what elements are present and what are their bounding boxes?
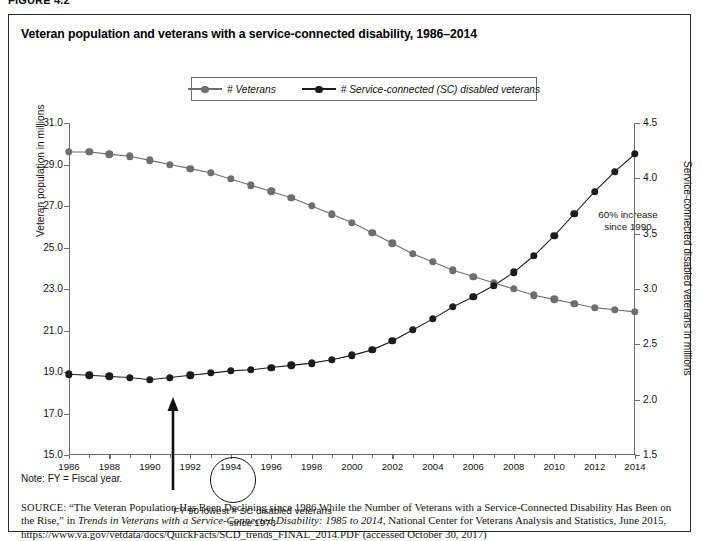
y-tick-label-right: 2.5 xyxy=(643,338,677,349)
source-text: SOURCE: “The Veteran Population Has Been… xyxy=(21,501,681,541)
data-point xyxy=(631,150,638,157)
y-tick-label-left: 19.0 xyxy=(29,366,63,377)
legend-marker-veterans xyxy=(188,84,222,94)
legend-label-sc-disabled: # Service-connected (SC) disabled vetera… xyxy=(341,84,540,95)
x-tick-label: 2014 xyxy=(615,461,655,472)
y-tick-label-left: 21.0 xyxy=(29,325,63,336)
x-tick-label: 1992 xyxy=(170,461,210,472)
y-tick-label-left: 17.0 xyxy=(29,408,63,419)
x-tick-label: 2012 xyxy=(575,461,615,472)
note-text: Note: FY = Fiscal year. xyxy=(21,473,122,484)
plot-frame: 15.017.019.021.023.025.027.029.031.0 1.5… xyxy=(69,123,635,455)
y-tick-label-right: 3.0 xyxy=(643,283,677,294)
x-tick-label: 1998 xyxy=(292,461,332,472)
y-tick-right xyxy=(635,123,640,124)
x-tick-label: 1988 xyxy=(89,461,129,472)
y-tick-label-right: 1.5 xyxy=(643,449,677,460)
series-line xyxy=(69,154,635,380)
y-tick-label-right: 4.0 xyxy=(643,172,677,183)
legend-marker-sc-disabled xyxy=(302,84,336,94)
highlight-circle-fy90 xyxy=(210,457,256,503)
x-tick-label: 2000 xyxy=(332,461,372,472)
series-line xyxy=(69,152,635,312)
series-lines xyxy=(69,123,635,455)
x-tick-label: 2004 xyxy=(413,461,453,472)
y-tick-label-right: 4.5 xyxy=(643,117,677,128)
x-tick-label: 2006 xyxy=(453,461,493,472)
y-tick-label-left: 15.0 xyxy=(29,449,63,460)
y-tick-label-right: 2.0 xyxy=(643,394,677,405)
source-prefix: SOURCE: xyxy=(21,502,66,513)
x-tick-label: 2008 xyxy=(494,461,534,472)
legend-item-veterans: # Veterans xyxy=(188,84,276,95)
y-tick-right xyxy=(635,344,640,345)
plot-area: 60% increase since 1990 15.017.019.021.0… xyxy=(69,109,635,461)
y-tick-right xyxy=(635,178,640,179)
x-tick-major xyxy=(635,454,636,459)
chart-legend: # Veterans # Service-connected (SC) disa… xyxy=(191,77,537,101)
x-tick-label: 1990 xyxy=(130,461,170,472)
y-tick-right xyxy=(635,400,640,401)
figure-panel: Veteran population and veterans with a s… xyxy=(8,14,691,532)
y-axis-title-right: Service-connected disabled veterans in m… xyxy=(682,161,693,376)
y-tick-right xyxy=(635,289,640,290)
y-axis-title-left: Veteran population in millions xyxy=(35,104,46,237)
legend-label-veterans: # Veterans xyxy=(227,84,276,95)
x-tick-label: 2010 xyxy=(534,461,574,472)
data-point xyxy=(631,308,638,315)
figure-label: FIGURE 4.2 xyxy=(8,0,70,8)
y-tick-label-left: 25.0 xyxy=(29,242,63,253)
x-tick-label: 2002 xyxy=(372,461,412,472)
y-tick-label-left: 23.0 xyxy=(29,283,63,294)
chart-title: Veteran population and veterans with a s… xyxy=(21,27,477,41)
x-tick-label: 1986 xyxy=(49,461,89,472)
x-tick-label: 1996 xyxy=(251,461,291,472)
legend-item-sc-disabled: # Service-connected (SC) disabled vetera… xyxy=(302,84,540,95)
source-title-italic: Trends in Veterans with a Service-Connec… xyxy=(78,514,383,526)
y-tick-label-right: 3.5 xyxy=(643,228,677,239)
y-tick-right xyxy=(635,234,640,235)
